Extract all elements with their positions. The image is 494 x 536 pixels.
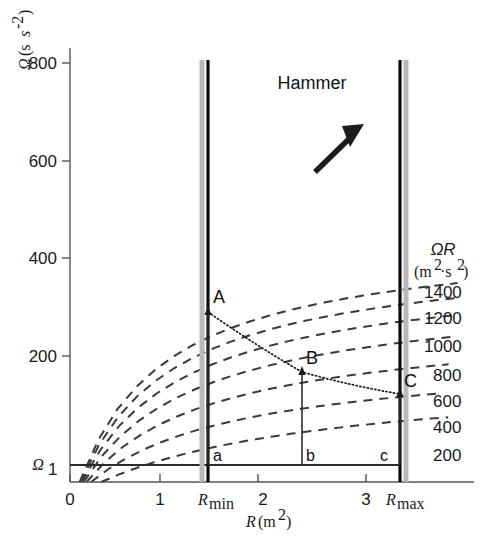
legend-unit-mid: ·s [440,263,452,280]
hyperbola-400 [91,393,441,482]
hyperbola-800 [84,337,454,482]
legend-value-400: 400 [433,418,461,437]
legend-value-200: 200 [433,446,461,465]
x-tick-label-0: 0 [65,490,74,509]
legend-value-1400: 1400 [424,283,462,302]
x-tick-label-3: 3 [361,490,370,509]
arrowhead-C [396,388,403,397]
y-tick-label-400: 400 [29,249,57,268]
y-axis-title-exponent: -2 [9,16,26,29]
y-axis: 800 600 400 200 Ω 1 Ω (s s -2 ) [9,10,70,482]
x-axis-title-symbol: R [245,513,256,530]
legend-value-1200: 1200 [424,309,462,328]
omega1-label: Ω [32,456,44,473]
point-label-a: a [213,447,222,464]
rmin-label: R min [197,491,234,512]
x-tick-label-1: 1 [155,490,164,509]
right-legend: ΩR (m 2 ·s 2 ) 1400 1200 1000 800 600 40… [414,240,468,465]
legend-unit: (m 2 ·s 2 ) [414,256,468,281]
legend-value-600: 600 [433,392,461,411]
lower-point-labels: a b c [213,447,388,464]
legend-value-800: 800 [433,366,461,385]
legend-unit-open: (m [414,263,432,281]
chart-figure: 800 600 400 200 Ω 1 Ω (s s -2 ) 0 1 [0,0,494,536]
x-axis-title-unit: (m [258,513,276,531]
y-axis-title-var: s [16,31,33,37]
y-axis-title-symbol: Ω [16,58,33,70]
x-axis-title: R (m 2 ) [245,506,291,531]
x-axis-title-exponent: 2 [278,506,286,523]
rmax-label: R max [385,491,425,512]
point-label-A: A [213,287,225,307]
hammer-annotation: Hammer [277,73,364,172]
rmax-subscript: max [397,495,425,512]
y-axis-title: Ω (s s -2 ) [9,10,34,70]
point-label-b: b [306,447,315,464]
y-tick-label-200: 200 [29,347,57,366]
arrowhead-B [298,366,305,375]
legend-unit-close: ) [463,263,468,281]
omega1-subscript: 1 [48,460,57,479]
y-axis-title-close: ) [16,10,34,15]
legend-value-1000: 1000 [424,337,462,356]
rmin-boundary [202,60,208,482]
y-axis-title-unit: (s [16,44,34,56]
rmax-boundary [400,60,406,482]
y-tick-label-600: 600 [29,152,57,171]
hammer-label: Hammer [277,73,346,93]
point-label-c: c [380,447,388,464]
x-tick-label-2: 2 [258,490,267,509]
rmin-subscript: min [209,495,234,512]
point-label-B: B [306,348,318,368]
chart-svg: 800 600 400 200 Ω 1 Ω (s s -2 ) 0 1 [0,0,494,536]
point-label-C: C [404,371,417,391]
rmax-symbol: R [385,491,396,508]
rmin-symbol: R [197,491,208,508]
hammer-arrow-shaft [315,136,352,172]
x-axis-title-close: ) [286,513,291,531]
x-axis: 0 1 2 3 R min R max R (m 2 ) [65,474,474,531]
